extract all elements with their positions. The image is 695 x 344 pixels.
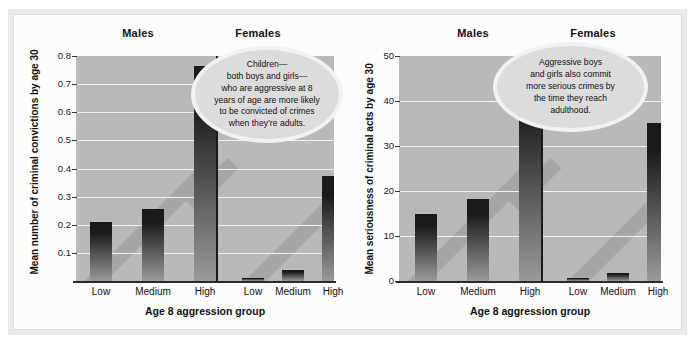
callout-line: who are aggressive at 8 xyxy=(214,83,320,95)
x-axis-tick-label: High xyxy=(504,286,556,297)
y-axis-tick-label: 50 xyxy=(364,50,394,61)
y-axis-tick-mark xyxy=(72,84,77,85)
chart-criminal-convictions: Males Females Mean number of criminal co… xyxy=(13,14,348,330)
callout-line: years of age are more likely xyxy=(214,95,320,107)
bar xyxy=(647,123,661,281)
callout-line: and girls also commit xyxy=(526,69,615,81)
x-axis-tick-label: Medium xyxy=(127,286,179,297)
bar xyxy=(415,214,437,282)
y-axis-tick-mark xyxy=(72,112,77,113)
callout-line: both boys and girls— xyxy=(214,71,320,83)
x-axis-line xyxy=(396,281,663,283)
x-axis-tick-label: High xyxy=(179,286,231,297)
y-axis-title: Mean number of criminal convictions by a… xyxy=(29,65,40,275)
x-axis-title: Age 8 aggression group xyxy=(399,305,661,317)
callout-line: Aggressive boys xyxy=(526,57,615,69)
y-axis-tick-mark xyxy=(395,101,400,102)
y-axis-tick-mark xyxy=(72,253,77,254)
y-axis-tick-mark xyxy=(395,146,400,147)
y-axis-tick-mark xyxy=(72,169,77,170)
callout-bubble-convictions: Children—both boys and girls—who are agg… xyxy=(191,46,343,143)
y-axis-tick-label: 0.3 xyxy=(39,191,71,202)
y-axis-tick-label: 0.2 xyxy=(39,219,71,230)
x-axis-tick-label: High xyxy=(632,286,684,297)
x-axis-tick-label: Low xyxy=(400,286,452,297)
x-axis-tick-label: Low xyxy=(75,286,127,297)
x-axis-tick-label: Medium xyxy=(452,286,504,297)
bar xyxy=(142,209,164,281)
y-axis-tick-label: 40 xyxy=(364,95,394,106)
callout-bubble-seriousness: Aggressive boysand girls also commitmore… xyxy=(493,42,648,132)
y-axis-tick-label: 0 xyxy=(364,275,394,286)
bar xyxy=(607,273,629,281)
y-axis-tick-mark xyxy=(72,140,77,141)
group-header-females: Females xyxy=(203,27,313,39)
y-axis-tick-label: 0.5 xyxy=(39,134,71,145)
group-header-males: Males xyxy=(418,27,528,39)
decorative-diagonal-stripe xyxy=(538,173,661,281)
x-axis-line xyxy=(73,281,336,283)
y-axis-tick-mark xyxy=(395,236,400,237)
chart-criminal-seriousness: Males Females Mean seriousness of crimin… xyxy=(348,14,682,330)
callout-line: when they’re adults. xyxy=(214,118,320,130)
callout-line: to be convicted of crimes xyxy=(214,106,320,118)
y-axis-tick-mark xyxy=(72,225,77,226)
callout-line: more serious crimes by xyxy=(526,81,615,93)
bar xyxy=(90,222,112,281)
bar xyxy=(282,270,304,281)
callout-line: adulthood. xyxy=(526,105,615,117)
y-axis-tick-label: 20 xyxy=(364,185,394,196)
group-header-males: Males xyxy=(83,27,193,39)
y-axis-tick-label: 0.7 xyxy=(39,78,71,89)
bar xyxy=(467,199,489,281)
bar xyxy=(322,176,334,281)
y-axis-tick-label: 0.4 xyxy=(39,163,71,174)
callout-line: Children— xyxy=(214,59,320,71)
figure-root: Males Females Mean number of criminal co… xyxy=(0,0,695,344)
y-axis-tick-label: 10 xyxy=(364,230,394,241)
y-axis-tick-label: 0.1 xyxy=(39,247,71,258)
y-axis-tick-mark xyxy=(395,191,400,192)
callout-line: the time they reach xyxy=(526,93,615,105)
y-axis-tick-mark xyxy=(72,197,77,198)
y-axis-tick-mark xyxy=(72,56,77,57)
y-axis-tick-label: 30 xyxy=(364,140,394,151)
y-axis-tick-mark xyxy=(395,56,400,57)
x-axis-title: Age 8 aggression group xyxy=(76,305,334,317)
group-header-females: Females xyxy=(538,27,648,39)
y-axis-tick-label: 0.8 xyxy=(39,50,71,61)
decorative-diagonal-stripe xyxy=(215,176,334,281)
y-axis-tick-label: 0.6 xyxy=(39,106,71,117)
